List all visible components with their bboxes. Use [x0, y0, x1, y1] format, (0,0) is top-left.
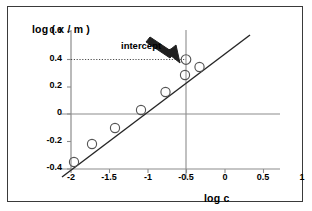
y-tick-label-0: 0.6	[32, 25, 62, 35]
data-point	[136, 105, 145, 114]
data-point-intercept	[181, 55, 191, 65]
y-tick-label-5: -0.4	[32, 162, 62, 172]
data-point	[195, 62, 204, 71]
data-point	[110, 123, 119, 132]
x-tick-label-0: -2	[56, 172, 86, 182]
data-point	[161, 87, 170, 96]
y-tick-label-2: 0.2	[32, 80, 62, 90]
x-tick-label-4: 0	[210, 172, 240, 182]
data-point	[69, 157, 78, 166]
x-tick-label-6: 1	[287, 172, 312, 182]
x-tick-label-5: 0.5	[248, 172, 278, 182]
y-tick-label-3: 0	[32, 107, 62, 117]
y-tick-label-4: -0.2	[32, 135, 62, 145]
data-point-markers	[69, 55, 204, 167]
data-point	[180, 70, 189, 79]
y-tick-label-1: 0.4	[32, 53, 62, 63]
regression-line	[62, 35, 250, 177]
x-tick-label-2: -1	[133, 172, 163, 182]
figure-frame: log ( x / m ) log c intercept 0.6 0.4 0.…	[7, 6, 303, 202]
x-axis-title: log c	[204, 192, 230, 204]
x-tick-label-1: -1.5	[94, 172, 124, 182]
x-tick-label-3: -0.5	[171, 172, 201, 182]
figure-container: log ( x / m ) log c intercept 0.6 0.4 0.…	[0, 0, 312, 211]
data-point	[87, 139, 96, 148]
intercept-annotation-label: intercept	[121, 40, 161, 51]
